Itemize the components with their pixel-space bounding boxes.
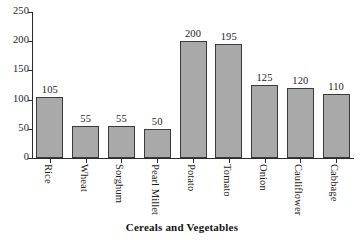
- x-axis-tick-mark: [86, 159, 87, 163]
- bar-value-label: 55: [116, 113, 127, 124]
- x-axis-category-label: Cabbage: [329, 164, 340, 201]
- y-axis-tick-label: 200: [13, 34, 29, 45]
- x-axis-category-label: Potato: [186, 164, 197, 191]
- bar[interactable]: [108, 126, 135, 158]
- bar-value-label: 200: [185, 28, 201, 39]
- bar-group[interactable]: 195: [215, 12, 242, 158]
- bar-chart: 050100150200250 105555550200195125120110…: [0, 0, 364, 240]
- bar-value-label: 120: [292, 75, 308, 86]
- x-axis-category-label: Cauliflower: [293, 164, 304, 215]
- bar[interactable]: [36, 97, 63, 158]
- y-axis-tick-label: 50: [18, 122, 29, 133]
- bar[interactable]: [215, 44, 242, 158]
- bar-group[interactable]: 125: [251, 12, 278, 158]
- bar[interactable]: [287, 88, 314, 158]
- bar-group[interactable]: 200: [180, 12, 207, 158]
- x-axis-category-label: Rice: [43, 164, 54, 184]
- plot-area: 105555550200195125120110: [32, 12, 354, 158]
- bar-value-label: 55: [80, 113, 91, 124]
- y-axis-tick-label: 100: [13, 93, 29, 104]
- x-axis-category-label: Tomato: [222, 164, 233, 197]
- x-axis-tick-mark: [157, 159, 158, 163]
- bar[interactable]: [144, 129, 171, 158]
- y-axis-tick-mark: [28, 158, 32, 159]
- bar[interactable]: [251, 85, 278, 158]
- bar-value-label: 50: [152, 116, 163, 127]
- bar-value-label: 105: [42, 84, 58, 95]
- bar[interactable]: [72, 126, 99, 158]
- bar[interactable]: [323, 94, 350, 158]
- x-axis-tick-mark: [265, 159, 266, 163]
- x-axis-category-label: Onion: [258, 164, 269, 191]
- x-axis-tick-mark: [50, 159, 51, 163]
- bar-group[interactable]: 110: [323, 12, 350, 158]
- y-axis-tick-label: 0: [24, 151, 29, 162]
- x-axis-title: Cereals and Vegetables: [0, 221, 364, 233]
- x-axis-category-label: Wheat: [79, 164, 90, 192]
- x-axis-tick-mark: [229, 159, 230, 163]
- bar[interactable]: [180, 41, 207, 158]
- x-axis-category-label: Sorghum: [114, 164, 125, 203]
- bar-value-label: 125: [257, 72, 273, 83]
- bar-group[interactable]: 120: [287, 12, 314, 158]
- bar-group[interactable]: 55: [108, 12, 135, 158]
- bar-group[interactable]: 50: [144, 12, 171, 158]
- bar-value-label: 110: [328, 81, 344, 92]
- x-axis-tick-mark: [300, 159, 301, 163]
- bar-group[interactable]: 105: [36, 12, 63, 158]
- bar-group[interactable]: 55: [72, 12, 99, 158]
- y-axis-tick-label: 250: [13, 5, 29, 16]
- x-axis-tick-mark: [336, 159, 337, 163]
- bar-value-label: 195: [221, 31, 237, 42]
- x-axis-tick-mark: [193, 159, 194, 163]
- x-axis-category-label: Pearl Millet: [150, 164, 161, 215]
- x-axis-tick-mark: [121, 159, 122, 163]
- y-axis-tick-label: 150: [13, 63, 29, 74]
